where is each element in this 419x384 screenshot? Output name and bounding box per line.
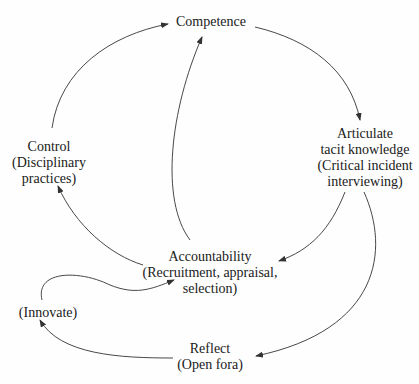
node-control-line-3: practices) (12, 171, 86, 187)
node-competence: Competence (176, 14, 246, 30)
edge-accountability-to-control (58, 186, 143, 265)
node-control-line-1: Control (12, 139, 86, 155)
node-reflect-line-1: Reflect (177, 341, 243, 357)
edge-accountability-to-competence (172, 37, 202, 240)
node-accountability-line-2: (Recruitment, appraisal, (143, 265, 278, 281)
node-articulate-line-4: interviewing) (317, 174, 412, 190)
node-competence-line-1: Competence (176, 14, 246, 30)
edge-control-to-competence (52, 24, 168, 128)
node-control-line-2: (Disciplinary (12, 155, 86, 171)
edge-competence-to-articulate (255, 27, 360, 120)
diagram-canvas: Competence Articulate tacit knowledge (C… (0, 0, 419, 384)
edges-layer (0, 0, 419, 384)
node-articulate-line-3: (Critical incident (317, 158, 412, 174)
edge-reflect-to-innovate (40, 320, 173, 358)
node-innovate-line-1: (Innovate) (19, 305, 77, 321)
edge-articulate-to-accountability (279, 192, 345, 261)
node-articulate: Articulate tacit knowledge (Critical inc… (317, 126, 412, 190)
node-innovate: (Innovate) (19, 305, 77, 321)
node-control: Control (Disciplinary practices) (12, 139, 86, 187)
node-accountability-line-3: selection) (143, 281, 278, 297)
node-articulate-line-2: tacit knowledge (317, 142, 412, 158)
node-accountability: Accountability (Recruitment, appraisal, … (143, 249, 278, 297)
node-articulate-line-1: Articulate (317, 126, 412, 142)
node-accountability-line-1: Accountability (143, 249, 278, 265)
node-reflect: Reflect (Open fora) (177, 341, 243, 373)
node-reflect-line-2: (Open fora) (177, 357, 243, 373)
